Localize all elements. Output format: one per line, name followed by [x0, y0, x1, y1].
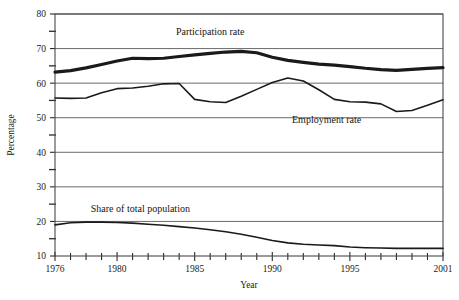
y-tick-label: 60	[37, 79, 47, 89]
y-axis-title: Percentage	[6, 114, 16, 156]
series-label-employment-rate: Employment rate	[292, 114, 362, 125]
y-tick-label: 50	[37, 113, 47, 123]
y-tick-label: 20	[37, 217, 47, 227]
series-line-share-of-total-population	[55, 222, 443, 248]
x-tick-label: 1985	[185, 264, 204, 274]
chart-figure: 1020304050607080 19761980198519901995200…	[0, 0, 459, 300]
series-label-participation-rate: Participation rate	[176, 26, 245, 37]
x-tick-label: 1980	[108, 264, 127, 274]
x-tick-labels: 197619801985199019952001	[46, 264, 453, 274]
x-axis-title: Year	[240, 280, 258, 290]
x-tick-label: 1990	[263, 264, 282, 274]
y-tick-label: 40	[37, 148, 47, 158]
series-line-participation-rate	[55, 51, 443, 72]
series-label-share-of-total-population: Share of total population	[91, 203, 190, 214]
x-tick-label: 2001	[434, 264, 453, 274]
plot-frame	[55, 14, 443, 256]
line-chart: 1020304050607080 19761980198519901995200…	[0, 0, 459, 300]
y-tick-label: 30	[37, 182, 47, 192]
grid-lines	[55, 14, 443, 221]
y-tick-label: 70	[37, 44, 47, 54]
x-tick-label: 1976	[46, 264, 65, 274]
y-tick-label: 80	[37, 9, 47, 19]
series-labels: Participation rateEmployment rateShare o…	[91, 26, 362, 214]
series-layer	[55, 51, 443, 248]
x-tick-label: 1995	[340, 264, 359, 274]
y-tick-label: 10	[37, 251, 47, 261]
y-tick-labels: 1020304050607080	[37, 9, 47, 261]
